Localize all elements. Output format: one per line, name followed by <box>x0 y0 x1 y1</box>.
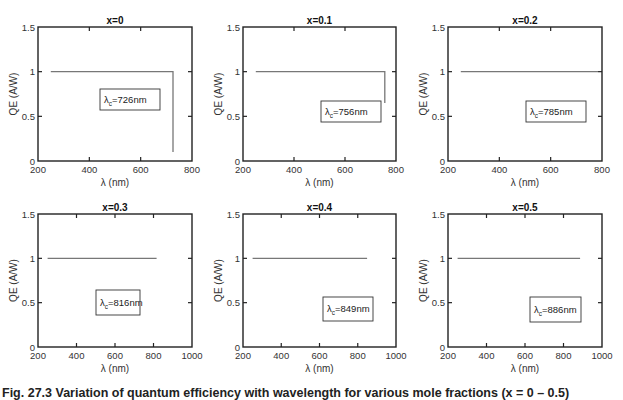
y-tick-label: 1.5 <box>22 22 35 33</box>
x-axis-label: λ (nm) <box>101 363 129 374</box>
y-tick-label: 0.5 <box>22 111 35 122</box>
y-tick-label: 0.5 <box>227 297 240 308</box>
axes-box <box>448 214 602 347</box>
chart-title: x=0.2 <box>512 15 538 26</box>
y-tick-label: 0.5 <box>432 297 445 308</box>
x-tick-label: 600 <box>517 350 533 361</box>
x-tick-label: 400 <box>69 350 85 361</box>
x-axis-label: λ (nm) <box>101 177 129 188</box>
chart-panel-0: x=020040060080000.511.5λ (nm)QE (A/W)λc=… <box>8 15 200 188</box>
y-tick-label: 1.5 <box>227 22 240 33</box>
chart-panel-1: x=0.120040060080000.511.5λ (nm)QE (A/W)λ… <box>213 15 404 188</box>
x-tick-label: 800 <box>594 164 610 175</box>
y-tick-label: 1 <box>30 253 35 264</box>
x-tick-label: 800 <box>388 164 404 175</box>
chart-title: x=0.5 <box>512 202 538 213</box>
chart-title: x=0.4 <box>307 202 333 213</box>
x-tick-label: 1000 <box>591 350 612 361</box>
y-tick-label: 1 <box>440 66 445 77</box>
x-tick-label: 800 <box>146 350 162 361</box>
y-axis-label: QE (A/W) <box>418 73 429 116</box>
x-tick-label: 400 <box>491 164 507 175</box>
y-tick-label: 1.5 <box>22 209 35 220</box>
figure-caption: Fig. 27.3 Variation of quantum efficienc… <box>2 386 623 400</box>
y-tick-label: 1 <box>235 253 240 264</box>
chart-panel-2: x=0.220040060080000.511.5λ (nm)QE (A/W)λ… <box>418 15 610 188</box>
x-axis-label: λ (nm) <box>511 177 539 188</box>
x-tick-label: 1000 <box>385 350 406 361</box>
chart-panel-3: x=0.3200400600800100000.511.5λ (nm)QE (A… <box>8 202 203 374</box>
axes-box <box>38 214 192 347</box>
y-tick-label: 1 <box>235 66 240 77</box>
x-tick-label: 400 <box>479 350 495 361</box>
x-axis-label: λ (nm) <box>511 363 539 374</box>
chart-title: x=0 <box>107 15 124 26</box>
x-tick-label: 600 <box>543 164 559 175</box>
y-tick-label: 0 <box>30 342 35 353</box>
axes-box <box>243 214 396 347</box>
y-axis-label: QE (A/W) <box>418 259 429 302</box>
x-tick-label: 600 <box>312 350 328 361</box>
x-tick-label: 400 <box>286 164 302 175</box>
y-tick-label: 0 <box>235 342 240 353</box>
y-tick-label: 1 <box>440 253 445 264</box>
axes-box <box>243 27 396 161</box>
y-tick-label: 0 <box>440 156 445 167</box>
y-tick-label: 1.5 <box>227 209 240 220</box>
y-tick-label: 0.5 <box>22 297 35 308</box>
y-tick-label: 0.5 <box>227 111 240 122</box>
x-axis-label: λ (nm) <box>305 177 333 188</box>
qe-series-line <box>256 72 385 103</box>
y-tick-label: 1 <box>30 66 35 77</box>
x-tick-label: 600 <box>133 164 149 175</box>
y-tick-label: 1.5 <box>432 209 445 220</box>
x-tick-label: 600 <box>337 164 353 175</box>
axes-box <box>448 27 602 161</box>
x-tick-label: 400 <box>81 164 97 175</box>
x-tick-label: 800 <box>184 164 200 175</box>
y-axis-label: QE (A/W) <box>8 73 19 116</box>
x-axis-label: λ (nm) <box>305 363 333 374</box>
x-tick-label: 1000 <box>181 350 202 361</box>
chart-title: x=0.3 <box>102 202 128 213</box>
chart-panel-5: x=0.5200400600800100000.511.5λ (nm)QE (A… <box>418 202 613 374</box>
y-tick-label: 0 <box>440 342 445 353</box>
y-tick-label: 1.5 <box>432 22 445 33</box>
qe-series-line <box>51 72 173 152</box>
y-axis-label: QE (A/W) <box>8 259 19 302</box>
x-tick-label: 800 <box>350 350 366 361</box>
y-tick-label: 0 <box>30 156 35 167</box>
y-axis-label: QE (A/W) <box>213 259 224 302</box>
x-tick-label: 800 <box>556 350 572 361</box>
y-tick-label: 0 <box>235 156 240 167</box>
y-axis-label: QE (A/W) <box>213 73 224 116</box>
x-tick-label: 400 <box>273 350 289 361</box>
chart-title: x=0.1 <box>307 15 333 26</box>
y-tick-label: 0.5 <box>432 111 445 122</box>
chart-panel-4: x=0.4200400600800100000.511.5λ (nm)QE (A… <box>213 202 407 374</box>
x-tick-label: 600 <box>107 350 123 361</box>
